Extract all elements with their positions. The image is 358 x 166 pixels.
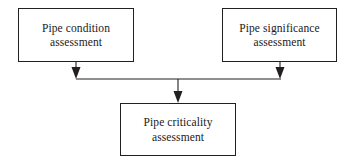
arrowhead-down-right <box>276 67 285 79</box>
node-pipe-condition-assessment: Pipe condition assessment <box>18 8 134 62</box>
edge-junction-to-criticality <box>174 79 183 103</box>
edge-significance-to-junction <box>276 62 285 79</box>
edge-condition-to-junction <box>72 62 81 79</box>
arrowhead-down-left <box>72 67 81 79</box>
node-pipe-criticality-assessment: Pipe criticality assessment <box>120 103 236 156</box>
node-label-criticality: Pipe criticality assessment <box>138 115 219 144</box>
node-label-significance: Pipe significance assessment <box>233 21 326 50</box>
flowchart-diagram: Pipe condition assessment Pipe significa… <box>0 0 358 166</box>
node-label-condition: Pipe condition assessment <box>36 21 116 50</box>
arrowhead-down-center <box>174 91 183 103</box>
node-pipe-significance-assessment: Pipe significance assessment <box>222 8 337 62</box>
